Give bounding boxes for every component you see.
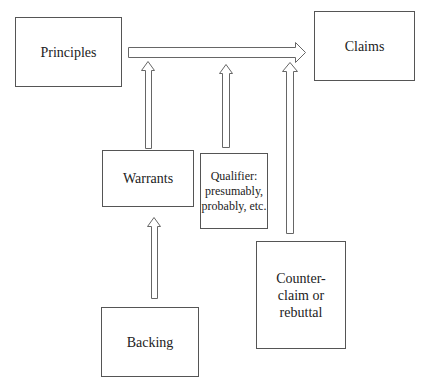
arrow-warrants-up [142, 62, 155, 149]
claims-label: Claims [345, 38, 385, 55]
arrow-qualifier-up [220, 65, 233, 148]
arrow-counterclaim-up [283, 63, 298, 234]
backing-box: Backing [101, 307, 199, 377]
counterclaim-label: Counter- claim or rebuttal [276, 270, 326, 321]
arrow-principles-to-claims [129, 43, 306, 63]
qualifier-box: Qualifier: presumably, probably, etc. [200, 153, 268, 229]
qualifier-label: Qualifier: presumably, probably, etc. [202, 169, 267, 214]
toulmin-diagram: Principles Claims Warrants Qualifier: pr… [0, 0, 432, 392]
backing-label: Backing [127, 334, 174, 351]
warrants-label: Warrants [123, 170, 173, 187]
claims-box: Claims [314, 11, 415, 81]
arrow-backing-up [148, 218, 161, 299]
principles-label: Principles [41, 44, 97, 61]
counterclaim-box: Counter- claim or rebuttal [256, 241, 346, 349]
warrants-box: Warrants [102, 150, 194, 207]
principles-box: Principles [15, 17, 122, 87]
